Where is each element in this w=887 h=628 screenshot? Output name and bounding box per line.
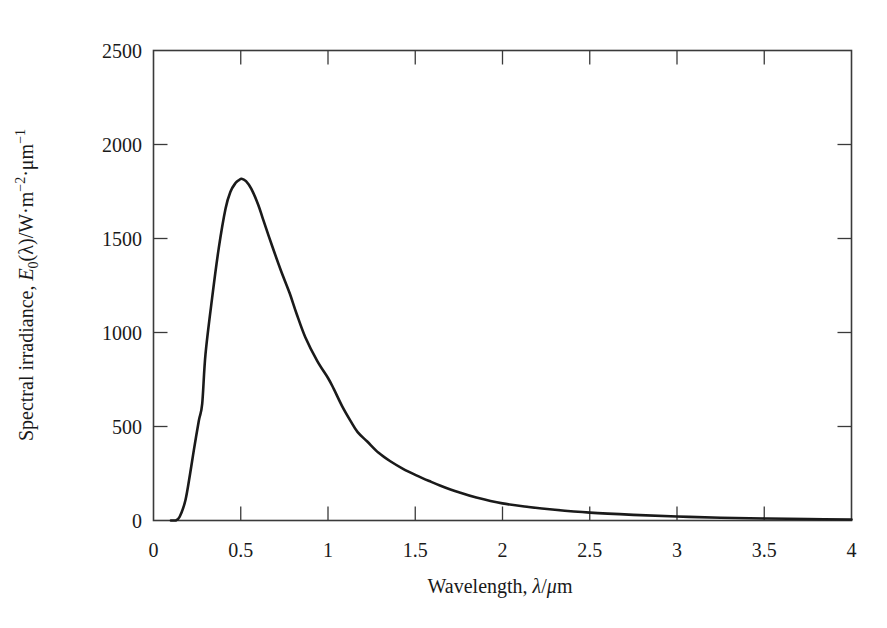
y-tick-label: 1500 xyxy=(102,228,142,250)
x-tick-label: 0.5 xyxy=(228,539,253,561)
y-axis-title-arg: (λ)/W·m xyxy=(15,191,38,261)
y-axis-title-subscript: 0 xyxy=(26,261,41,268)
y-axis-title-exponent-1: −2 xyxy=(13,177,28,192)
y-axis-title-mid: ·μm xyxy=(15,143,38,176)
x-tick-label: 0 xyxy=(149,539,159,561)
x-axis-tick-labels: 00.511.522.533.54 xyxy=(149,539,857,561)
chart-figure: 00.511.522.533.54 05001000150020002500 W… xyxy=(0,0,887,628)
y-axis-title: Spectral irradiance, E0(λ)/W·m−2·μm−1 xyxy=(13,129,41,441)
spectral-irradiance-curve xyxy=(171,179,852,521)
y-axis-tick-labels: 05001000150020002500 xyxy=(102,40,142,532)
y-axis-title-prefix: Spectral irradiance, xyxy=(15,281,38,441)
x-tick-label: 1.5 xyxy=(403,539,428,561)
y-tick-label: 2000 xyxy=(102,134,142,156)
spectral-irradiance-chart: 00.511.522.533.54 05001000150020002500 W… xyxy=(0,0,887,628)
y-tick-label: 0 xyxy=(132,510,142,532)
y-axis-title-symbol: E xyxy=(15,268,37,281)
x-axis-ticks xyxy=(241,51,765,521)
y-tick-label: 1000 xyxy=(102,322,142,344)
x-tick-label: 3.5 xyxy=(752,539,777,561)
y-tick-label: 500 xyxy=(112,416,142,438)
x-tick-label: 4 xyxy=(847,539,857,561)
y-tick-label: 2500 xyxy=(102,40,142,62)
x-tick-label: 2 xyxy=(498,539,508,561)
x-axis-title: Wavelength, λ/μm xyxy=(428,575,573,598)
x-tick-label: 1 xyxy=(323,539,333,561)
y-axis-title-exponent-2: −1 xyxy=(13,129,28,144)
plot-area-frame xyxy=(154,51,852,521)
y-axis-ticks xyxy=(154,145,852,427)
x-tick-label: 3 xyxy=(672,539,682,561)
x-tick-label: 2.5 xyxy=(577,539,602,561)
